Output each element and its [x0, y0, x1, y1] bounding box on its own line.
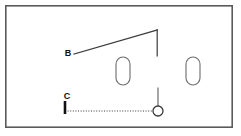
technical-line-diagram: B C: [0, 0, 241, 136]
diagonal-rising-line: [74, 30, 157, 54]
outer-border-frame: [6, 6, 232, 127]
label-c: C: [64, 91, 71, 101]
label-b: B: [65, 48, 72, 58]
capsule-left-shape: [116, 57, 130, 85]
diagram-canvas: B C: [0, 0, 241, 136]
pivot-circle-node: [153, 106, 163, 116]
capsule-right-shape: [186, 57, 200, 85]
